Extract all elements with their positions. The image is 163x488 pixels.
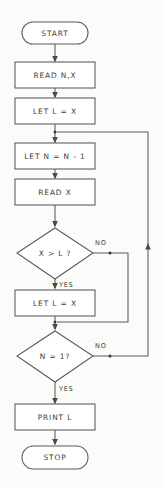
flowchart-canvas: START READ N,X LET L = X LET N = N - 1 R… bbox=[0, 0, 163, 488]
branch-label-n-eq-1-yes: YES bbox=[58, 385, 73, 393]
let-l-x-initial-label: LET L = X bbox=[33, 107, 77, 116]
node-decision-n-eq-1[interactable]: N = 1? bbox=[17, 331, 93, 382]
read-x-label: READ X bbox=[38, 188, 71, 197]
arrow-head-test-x-l bbox=[52, 221, 58, 228]
branch-label-x-gt-l-yes: YES bbox=[58, 281, 73, 289]
let-l-x-update-label: LET L = X bbox=[33, 299, 77, 308]
node-let-l-x-update[interactable]: LET L = X bbox=[15, 290, 95, 316]
node-read-x[interactable]: READ X bbox=[15, 179, 95, 205]
junction-outer-loop-start bbox=[109, 355, 112, 358]
node-start[interactable]: START bbox=[22, 22, 88, 44]
node-print-l[interactable]: PRINT L bbox=[15, 404, 95, 430]
decision-x-gt-l-label: X > L ? bbox=[39, 249, 72, 258]
junction-inner-loop-start bbox=[109, 252, 112, 255]
node-decision-x-gt-l[interactable]: X > L ? bbox=[17, 228, 93, 279]
branch-label-n-eq-1-no: NO bbox=[95, 342, 107, 350]
node-read-nx[interactable]: READ N,X bbox=[15, 62, 95, 88]
let-n-decrement-label: LET N = N - 1 bbox=[24, 152, 85, 161]
arrow-head-test-n-1 bbox=[52, 324, 58, 331]
arrow-head-stop bbox=[52, 439, 58, 446]
junction-outer-loop-merge bbox=[54, 131, 57, 134]
node-stop[interactable]: STOP bbox=[22, 446, 88, 469]
node-let-n-decrement[interactable]: LET N = N - 1 bbox=[15, 143, 95, 169]
read-nx-label: READ N,X bbox=[33, 71, 76, 80]
decision-n-eq-1-label: N = 1? bbox=[40, 352, 70, 361]
branch-label-x-gt-l-no: NO bbox=[95, 239, 107, 247]
start-label: START bbox=[41, 29, 68, 38]
arrow-head-let-l-2 bbox=[52, 283, 58, 290]
print-l-label: PRINT L bbox=[38, 413, 73, 422]
arrow-head-outer-loop-up bbox=[145, 243, 151, 250]
stop-label: STOP bbox=[43, 453, 66, 462]
node-let-l-x-initial[interactable]: LET L = X bbox=[15, 98, 95, 124]
junction-inner-loop-merge bbox=[54, 321, 57, 324]
